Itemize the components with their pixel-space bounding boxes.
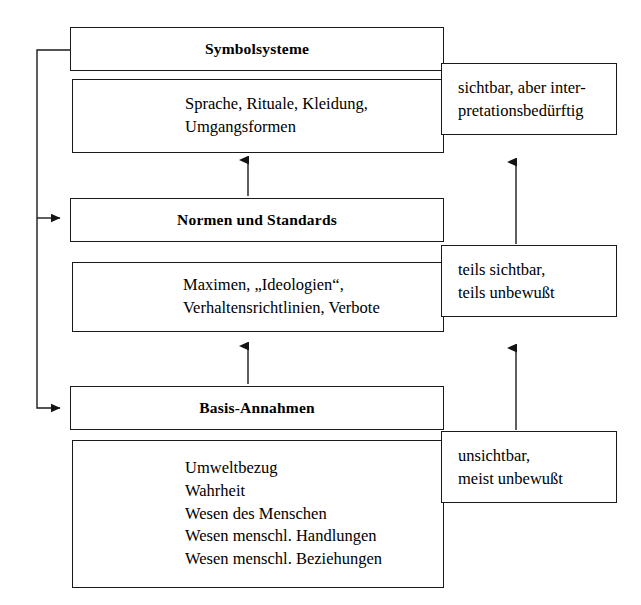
feedback-line-top <box>37 50 70 218</box>
visibility-label-symbolsysteme: sichtbar, aber inter- pretationsbedürfti… <box>442 76 586 123</box>
level-heading-basis-annahmen: Basis-Annahmen <box>199 399 315 417</box>
level-content-symbolsysteme: Sprache, Rituale, Kleidung, Umgangsforme… <box>73 93 368 139</box>
level-heading-box-basis-annahmen: Basis-Annahmen <box>70 386 444 430</box>
visibility-box-normen-und-standards: teils sichtbar, teils unbewußt <box>441 245 617 317</box>
level-content-box-symbolsysteme: Sprache, Rituale, Kleidung, Umgangsforme… <box>72 79 444 153</box>
level-heading-box-normen-und-standards: Normen und Standards <box>70 198 444 242</box>
feedback-arrow-to-basis <box>37 218 60 408</box>
visibility-box-basis-annahmen: unsichtbar, meist unbewußt <box>441 431 617 503</box>
visibility-label-normen-und-standards: teils sichtbar, teils unbewußt <box>442 258 555 305</box>
level-content-box-basis-annahmen: Umweltbezug Wahrheit Wesen des Menschen … <box>72 440 444 588</box>
level-content-box-normen-und-standards: Maximen, „Ideologien“, Verhaltensrichtli… <box>72 262 444 332</box>
level-content-basis-annahmen: Umweltbezug Wahrheit Wesen des Menschen … <box>73 457 382 571</box>
visibility-label-basis-annahmen: unsichtbar, meist unbewußt <box>442 444 563 491</box>
visibility-box-symbolsysteme: sichtbar, aber inter- pretationsbedürfti… <box>441 63 617 135</box>
level-heading-symbolsysteme: Symbolsysteme <box>205 40 309 58</box>
diagram-canvas: Symbolsysteme Sprache, Rituale, Kleidung… <box>0 0 641 605</box>
level-heading-normen-und-standards: Normen und Standards <box>177 211 337 229</box>
level-heading-box-symbolsysteme: Symbolsysteme <box>70 27 444 71</box>
level-content-normen-und-standards: Maximen, „Ideologien“, Verhaltensrichtli… <box>73 274 380 320</box>
